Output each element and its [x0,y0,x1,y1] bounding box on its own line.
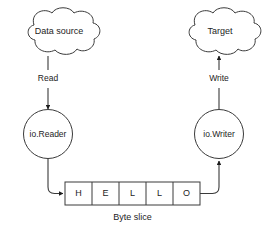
node-label-data-source: Data source [35,26,84,36]
byte-slice-cell: E [102,188,108,198]
node-target[interactable]: Target [189,8,261,55]
node-io-writer[interactable]: io.Writer [195,110,244,159]
node-label-target: Target [207,26,233,36]
edge-read: Read [38,56,59,109]
diagram-canvas: Data source Target Read Write io.Reader … [0,0,270,234]
byte-slice-cell: O [183,188,190,198]
edge-write: Write [209,56,229,109]
diagram-root: Data source Target Read Write io.Reader … [0,0,270,234]
edge-label-write: Write [209,73,229,83]
edge-reader-to-slice [48,159,63,194]
edge-slice-to-writer [200,161,219,194]
byte-slice-cell: L [157,188,162,198]
byte-slice-cell: L [130,188,135,198]
node-io-reader[interactable]: io.Reader [24,110,73,159]
byte-slice[interactable]: H E L L O Byte slice [65,182,200,222]
node-label-io-writer: io.Writer [203,129,235,139]
edge-label-read: Read [38,73,59,83]
node-label-io-reader: io.Reader [30,129,67,139]
byte-slice-caption: Byte slice [113,212,152,222]
byte-slice-cell: H [75,188,82,198]
edge-path-reader-to-slice [48,159,63,194]
node-data-source[interactable]: Data source [28,8,100,55]
edge-path-slice-to-writer [200,161,219,194]
